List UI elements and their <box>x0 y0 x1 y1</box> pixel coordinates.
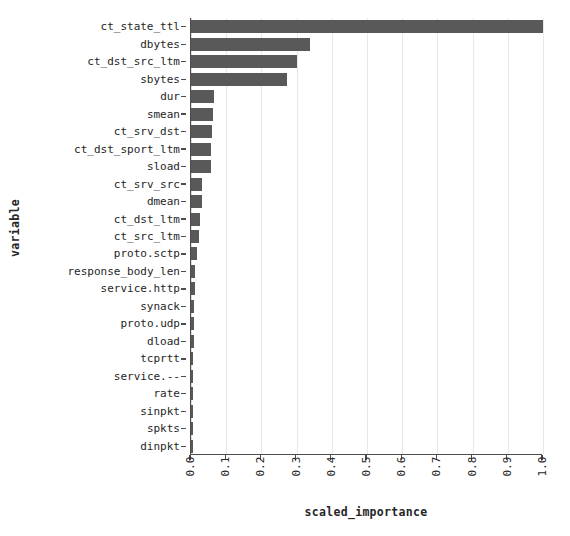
y-tick-label: synack <box>140 297 180 316</box>
bar-row <box>191 402 543 421</box>
x-axis-title: scaled_importance <box>190 505 542 519</box>
y-tick-label: ct_dst_src_ltm <box>87 52 180 71</box>
variable-importance-chart: variable ct_state_ttldbytesct_dst_src_lt… <box>0 0 570 536</box>
bar <box>191 370 193 383</box>
x-tick-label: 0.0 <box>183 463 197 476</box>
y-tick-mark <box>181 96 186 97</box>
bar-row <box>191 384 543 403</box>
y-tick-label: dload <box>147 332 180 351</box>
y-tick-label: response_body_len <box>67 262 180 281</box>
bar <box>191 230 199 243</box>
y-tick-mark <box>181 218 186 219</box>
y-tick-mark <box>181 131 186 132</box>
y-tick-label: ct_state_ttl <box>101 17 180 36</box>
bar <box>191 213 200 226</box>
bar-row <box>191 192 543 211</box>
x-tick-label-text: 0.0 <box>184 463 197 477</box>
bar <box>191 300 194 313</box>
bar <box>191 335 194 348</box>
y-tick-mark <box>181 306 186 307</box>
x-tick-label-text: 0.7 <box>430 463 443 477</box>
y-tick-label: service.http <box>101 279 180 298</box>
bar-row <box>191 349 543 368</box>
bar <box>191 143 211 156</box>
x-tick-label: 0.7 <box>429 463 443 476</box>
bar <box>191 38 310 51</box>
bar <box>191 20 543 33</box>
y-tick-mark <box>181 271 186 272</box>
y-tick-mark <box>181 201 186 202</box>
y-tick-label: smean <box>147 105 180 124</box>
plot-area <box>190 18 542 455</box>
x-tick-label: 0.9 <box>500 463 514 476</box>
y-tick-label: ct_srv_dst <box>114 122 180 141</box>
y-tick-label: ct_dst_sport_ltm <box>74 140 180 159</box>
y-tick-label: ct_src_ltm <box>114 227 180 246</box>
x-tick-label-text: 0.8 <box>465 463 478 477</box>
x-tick-label: 0.4 <box>324 463 338 476</box>
y-tick-mark <box>181 358 186 359</box>
y-tick-mark <box>181 288 186 289</box>
bar-row <box>191 175 543 194</box>
x-tick-label-text: 0.6 <box>395 463 408 477</box>
bar-row <box>191 70 543 89</box>
y-tick-label: rate <box>154 384 181 403</box>
y-tick-label: proto.sctp <box>114 244 180 263</box>
y-tick-mark <box>181 446 186 447</box>
bar-row <box>191 52 543 71</box>
y-tick-label: proto.udp <box>120 314 180 333</box>
y-tick-mark <box>181 428 186 429</box>
x-tick-label: 0.1 <box>218 463 232 476</box>
x-tick-label-text: 0.1 <box>219 463 232 477</box>
bar <box>191 125 212 138</box>
y-axis-tick-labels: ct_state_ttldbytesct_dst_src_ltmsbytesdu… <box>0 18 186 455</box>
y-tick-label: dinpkt <box>140 437 180 456</box>
gridline-1.0 <box>543 18 544 454</box>
y-tick-mark <box>181 113 186 114</box>
x-tick-label: 0.8 <box>465 463 479 476</box>
bar-row <box>191 279 543 298</box>
y-tick-mark <box>181 148 186 149</box>
bar-row <box>191 227 543 246</box>
bar-row <box>191 157 543 176</box>
bar <box>191 247 197 260</box>
bar-row <box>191 437 543 456</box>
x-tick-label: 0.6 <box>394 463 408 476</box>
bar-row <box>191 87 543 106</box>
x-tick-label: 0.5 <box>359 463 373 476</box>
bar-row <box>191 332 543 351</box>
y-tick-label: service.-- <box>114 367 180 386</box>
bar-row <box>191 297 543 316</box>
bar-row <box>191 244 543 263</box>
y-tick-mark <box>181 376 186 377</box>
x-tick-label: 0.3 <box>289 463 303 476</box>
bar <box>191 440 193 453</box>
x-tick-label: 0.2 <box>253 463 267 476</box>
x-tick-label: 1.0 <box>535 463 549 476</box>
bar <box>191 55 297 68</box>
y-tick-label: sbytes <box>140 70 180 89</box>
y-tick-label: dur <box>160 87 180 106</box>
y-tick-label: ct_dst_ltm <box>114 210 180 229</box>
bar <box>191 387 193 400</box>
bar-row <box>191 140 543 159</box>
bar <box>191 90 214 103</box>
bar <box>191 195 202 208</box>
y-tick-mark <box>181 341 186 342</box>
bar-row <box>191 314 543 333</box>
y-tick-mark <box>181 393 186 394</box>
y-tick-mark <box>181 253 186 254</box>
x-tick-label-text: 0.9 <box>500 463 513 477</box>
x-tick-label-text: 0.3 <box>289 463 302 477</box>
bar-row <box>191 419 543 438</box>
x-tick-label-text: 1.0 <box>536 463 549 477</box>
y-tick-mark <box>181 61 186 62</box>
x-axis-tick-labels: 0.00.10.20.30.40.50.60.70.80.91.0 <box>190 455 542 505</box>
x-tick-label-text: 0.2 <box>254 463 267 477</box>
bar <box>191 352 193 365</box>
bar-row <box>191 262 543 281</box>
bar-row <box>191 105 543 124</box>
bar <box>191 422 193 435</box>
y-tick-label: sinpkt <box>140 402 180 421</box>
y-tick-mark <box>181 411 186 412</box>
